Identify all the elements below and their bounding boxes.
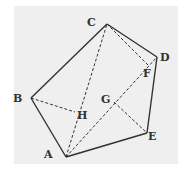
point-label-g: G [101,93,110,106]
point-labels: ABCDEFGH [13,16,170,161]
segment-ge [114,102,147,133]
pentagon-diagram: ABCDEFGH [0,0,181,175]
point-label-d: D [160,51,170,64]
point-label-c: C [87,16,96,29]
point-label-h: H [77,109,87,122]
point-label-f: F [143,67,151,80]
segment-cf [107,24,148,65]
edge-cd [107,24,157,57]
point-label-e: E [148,130,156,143]
point-label-a: A [43,148,53,161]
point-label-b: B [13,92,22,105]
pentagon-edges [31,24,157,157]
edge-ea [66,133,147,157]
